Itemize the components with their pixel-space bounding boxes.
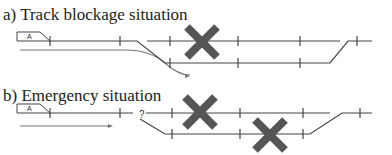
train-icon	[17, 32, 50, 41]
unknown-route-question-mark: ?	[139, 109, 145, 120]
route-arrowhead-icon	[108, 124, 113, 128]
track-diagram: AA?	[0, 0, 392, 155]
train-label: A	[27, 33, 32, 40]
train-icon	[17, 104, 50, 113]
train-label: A	[27, 105, 32, 112]
